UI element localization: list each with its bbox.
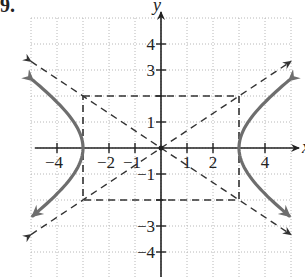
svg-text:−4: −4 (45, 153, 64, 172)
svg-text:−2: −2 (97, 153, 115, 172)
svg-text:−1: −1 (137, 165, 155, 184)
hyperbola-graph: −4−2−1124431−1−3−4xy (0, 0, 305, 277)
svg-text:4: 4 (147, 35, 156, 54)
svg-text:1: 1 (147, 113, 156, 132)
svg-text:x: x (301, 137, 305, 157)
svg-text:y: y (151, 0, 161, 15)
svg-text:1: 1 (183, 153, 192, 172)
svg-text:−4: −4 (137, 243, 156, 262)
svg-text:3: 3 (147, 61, 156, 80)
axes (35, 12, 299, 277)
tick-labels: −4−2−1124431−1−3−4xy (45, 0, 305, 262)
svg-text:2: 2 (209, 153, 218, 172)
svg-text:4: 4 (261, 153, 270, 172)
svg-text:−3: −3 (137, 217, 155, 236)
